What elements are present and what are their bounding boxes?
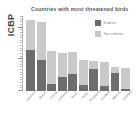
legend-item-endemic[interactable]: Endemic bbox=[95, 20, 137, 26]
bar-segment-endemic bbox=[89, 69, 98, 91]
bar-segment-non-endemic bbox=[47, 51, 56, 84]
x-tick-cell: Brazil bbox=[37, 92, 46, 118]
y-axis-minor-tick bbox=[20, 35, 23, 36]
x-tick-label: India bbox=[81, 91, 89, 99]
legend-item-nonendemic[interactable]: Non-endemic bbox=[95, 31, 137, 37]
y-axis-minor-tick bbox=[20, 37, 23, 38]
y-axis-minor-tick bbox=[20, 16, 23, 17]
y-axis-major-tick bbox=[18, 90, 23, 91]
y-axis-minor-tick bbox=[20, 21, 23, 22]
x-tick-cell: Indonesia bbox=[26, 92, 35, 118]
x-tick-cell: India bbox=[79, 92, 88, 118]
bar-segment-non-endemic bbox=[58, 53, 67, 76]
y-axis-minor-tick bbox=[20, 24, 23, 25]
bar-segment-non-endemic bbox=[26, 20, 35, 50]
x-tick-cell: China bbox=[47, 92, 56, 118]
bar-segment-endemic bbox=[26, 50, 35, 91]
bar-segment-endemic bbox=[37, 60, 46, 91]
x-tick-cell: Ecuador bbox=[100, 92, 109, 118]
bar-mexico[interactable] bbox=[111, 67, 120, 91]
bar-segment-non-endemic bbox=[37, 22, 46, 60]
x-axis-tick-labels: IndonesiaBrazilChinaColombiaPeruIndiaPhi… bbox=[26, 92, 130, 118]
y-axis-minor-tick bbox=[20, 79, 23, 80]
y-axis-minor-tick bbox=[20, 69, 23, 70]
bar-ecuador[interactable] bbox=[100, 62, 109, 91]
y-axis-minor-tick bbox=[20, 85, 23, 86]
y-axis-minor-tick bbox=[20, 42, 23, 43]
x-tick-cell: Philippines bbox=[89, 92, 98, 118]
bar-segment-non-endemic bbox=[121, 68, 130, 89]
y-axis-minor-tick bbox=[20, 87, 23, 88]
bar-segment-non-endemic bbox=[68, 52, 77, 74]
bar-segment-endemic bbox=[79, 85, 88, 91]
legend-swatch-endemic bbox=[95, 20, 101, 26]
x-tick-label: Peru bbox=[70, 91, 78, 99]
y-axis-minor-tick bbox=[20, 72, 23, 73]
y-axis-minor-tick bbox=[20, 74, 23, 75]
bar-vietnam[interactable] bbox=[121, 68, 130, 91]
y-axis-minor-tick bbox=[20, 48, 23, 49]
y-axis-major-tick bbox=[18, 27, 23, 28]
bar-indonesia[interactable] bbox=[26, 20, 35, 91]
y-axis-minor-tick bbox=[20, 53, 23, 54]
y-axis-minor-tick bbox=[20, 29, 23, 30]
legend-swatch-nonendemic bbox=[95, 31, 101, 37]
y-axis-minor-tick bbox=[20, 77, 23, 78]
chart-figure: ICBP Countries with most threatened bird… bbox=[0, 0, 138, 119]
y-axis-minor-tick bbox=[20, 50, 23, 51]
x-tick-cell: Mexico bbox=[111, 92, 120, 118]
legend-label: Endemic bbox=[104, 21, 117, 25]
bar-segment-endemic bbox=[68, 74, 77, 91]
bar-brazil[interactable] bbox=[37, 22, 46, 91]
y-axis-minor-tick bbox=[20, 61, 23, 62]
chart-title: Countries with most threatened birds bbox=[31, 6, 135, 12]
y-axis-minor-tick bbox=[20, 19, 23, 20]
bar-segment-non-endemic bbox=[100, 62, 109, 86]
y-axis-minor-tick bbox=[20, 64, 23, 65]
x-tick-cell: Vietnam bbox=[121, 92, 130, 118]
x-tick-label: Brazil bbox=[38, 91, 47, 100]
bar-philippines[interactable] bbox=[89, 61, 98, 91]
x-tick-label: Vietnam bbox=[121, 89, 132, 101]
x-tick-cell: Peru bbox=[68, 92, 77, 118]
y-axis-minor-tick bbox=[20, 82, 23, 83]
legend-label: Non-endemic bbox=[104, 32, 124, 36]
y-axis-major-tick bbox=[18, 58, 23, 59]
bar-segment-non-endemic bbox=[79, 60, 88, 85]
bar-segment-endemic bbox=[111, 73, 120, 91]
y-axis-minor-tick bbox=[20, 40, 23, 41]
y-axis-minor-tick bbox=[20, 32, 23, 33]
x-tick-label: Mexico bbox=[111, 90, 121, 101]
y-axis-minor-tick bbox=[20, 45, 23, 46]
y-axis-minor-tick bbox=[20, 66, 23, 67]
y-axis-minor-tick bbox=[20, 56, 23, 57]
y-axis-source-label: ICBP bbox=[6, 5, 16, 45]
bar-india[interactable] bbox=[79, 60, 88, 91]
bar-colombia[interactable] bbox=[58, 53, 67, 91]
chart-legend: EndemicNon-endemic bbox=[95, 20, 137, 42]
bar-china[interactable] bbox=[47, 51, 56, 91]
bar-segment-non-endemic bbox=[89, 61, 98, 68]
bar-peru[interactable] bbox=[68, 52, 77, 91]
x-tick-cell: Colombia bbox=[58, 92, 67, 118]
